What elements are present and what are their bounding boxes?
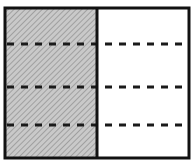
fraction-diagram [0,0,191,165]
shaded-column [5,8,97,158]
